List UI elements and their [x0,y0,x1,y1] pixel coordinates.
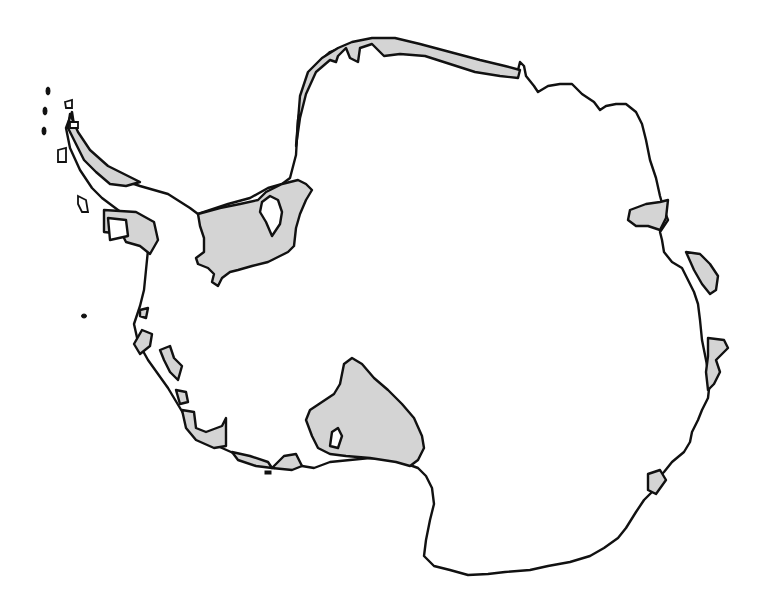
ice-shelf-west-coast-1 [140,308,148,318]
island-south-shetland-1 [46,87,50,95]
island-adelaide [78,196,88,212]
island-south-shetland-2 [43,107,47,115]
island-small-2 [58,148,66,162]
ice-shelf-shackleton [706,338,728,390]
island-roosevelt [330,428,342,448]
antarctica-map [0,0,772,605]
ice-shelf-totten [648,470,666,494]
island-joinville [65,100,72,108]
island-small-1 [70,122,78,128]
island-alexander [108,218,128,240]
island-siple [265,471,271,474]
island-peter-i [82,314,87,318]
island-south-shetland-3 [42,127,46,135]
continent-landmass [66,40,710,575]
